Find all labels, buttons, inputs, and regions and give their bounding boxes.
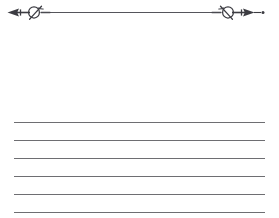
rule-line-2 xyxy=(14,140,265,141)
stationery-page xyxy=(0,0,279,218)
divider-graphic xyxy=(0,0,279,26)
right-knot-tick-icon xyxy=(219,8,224,9)
left-knot-tick-icon xyxy=(38,8,43,9)
rule-line-1 xyxy=(14,122,265,123)
left-knot-loop-icon xyxy=(29,7,40,18)
right-arrow-knot-finial xyxy=(212,6,265,19)
rule-line-3 xyxy=(14,158,265,159)
rule-line-6 xyxy=(14,212,265,213)
right-tail-dot-icon xyxy=(262,11,265,14)
left-arrow-knot-finial xyxy=(8,6,51,19)
right-knot-loop-icon xyxy=(223,7,234,18)
ornamental-arrow-divider xyxy=(0,0,279,26)
rule-line-5 xyxy=(14,194,265,195)
rule-line-4 xyxy=(14,176,265,177)
blank-content-area[interactable] xyxy=(0,26,279,116)
